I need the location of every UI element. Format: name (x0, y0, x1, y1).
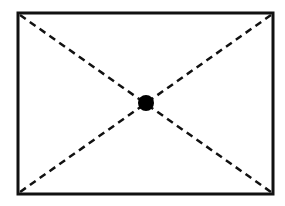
diagram-canvas (0, 0, 285, 206)
center-point (138, 95, 154, 111)
